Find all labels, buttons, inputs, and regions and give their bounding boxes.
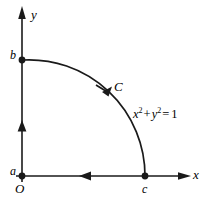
origin-label: O <box>15 182 24 195</box>
point-label-b: b <box>10 49 16 61</box>
x-axis-label: x <box>193 168 199 181</box>
equation-equals-sign: = <box>161 107 170 121</box>
point-label-a: a <box>10 165 16 177</box>
contour-diagram-svg <box>0 0 203 206</box>
curve-label-C: C <box>114 80 123 93</box>
y-axis-direction-arrowhead-icon <box>18 120 27 132</box>
y-axis-label: y <box>31 8 37 21</box>
curve-equation: x2+y2=1 <box>133 108 179 121</box>
point-dot-a <box>19 173 26 180</box>
point-dot-b <box>19 57 26 64</box>
x-axis-arrowhead-icon <box>178 172 191 180</box>
figure-canvas: y x a b c O C x2+y2=1 <box>0 0 203 206</box>
x-axis-direction-arrowhead-icon <box>79 171 91 180</box>
equation-x-exponent: 2 <box>139 106 143 115</box>
quarter-circle-arc-C <box>22 60 145 176</box>
equation-plus-sign: + <box>143 107 152 121</box>
equation-value: 1 <box>170 107 178 121</box>
point-dot-c <box>142 173 149 180</box>
y-axis-arrowhead-icon <box>18 6 26 19</box>
point-label-c: c <box>142 183 147 195</box>
